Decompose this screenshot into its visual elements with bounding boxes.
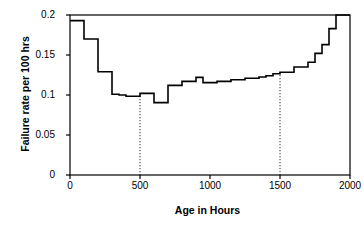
axis-tick-marks xyxy=(66,15,350,179)
annotation-dotted-lines xyxy=(140,72,280,175)
plot-area xyxy=(0,0,364,233)
chart-figure: Failure rate per 100 hrs 0.2 0.15 0.1 0.… xyxy=(0,0,364,233)
failure-rate-step-curve xyxy=(70,15,350,103)
